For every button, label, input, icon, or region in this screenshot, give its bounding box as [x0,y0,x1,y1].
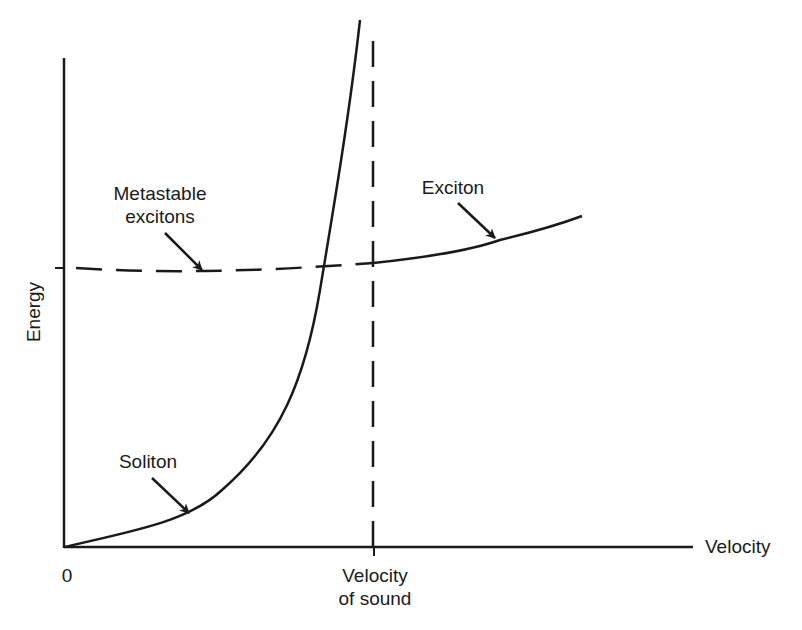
soliton-arrow [152,478,189,513]
origin-label: 0 [62,565,73,586]
exciton-arrow [458,203,495,238]
y-axis-label: Energy [23,281,44,342]
x-axis-label: Velocity [705,536,771,557]
exciton-label: Exciton [422,177,484,198]
velocity-of-sound-label-1: Velocity [342,565,408,586]
soliton-label: Soliton [119,451,177,472]
metastable-label-2: excitons [125,206,195,227]
metastable-excitons-curve [76,263,373,271]
velocity-of-sound-label-2: of sound [339,588,412,609]
energy-velocity-diagram: Energy Velocity 0 Velocity of sound Meta… [0,0,802,630]
metastable-label-1: Metastable [114,183,207,204]
metastable-arrow [165,233,202,270]
soliton-curve [64,20,360,547]
